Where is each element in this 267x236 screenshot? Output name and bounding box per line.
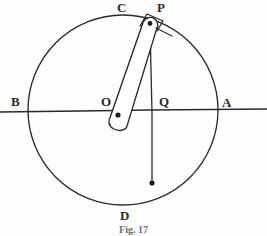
vertex-label-d: D <box>120 209 130 222</box>
link-end-tab-edge <box>156 28 172 36</box>
vertex-label-p: P <box>157 1 165 14</box>
figure-17-container: A B C D O P Q Fig. 17 <box>0 0 267 236</box>
pivot-dot-p <box>148 21 153 26</box>
vertex-label-q: Q <box>159 95 169 108</box>
geometry-diagram-svg <box>0 0 267 236</box>
vertex-label-b: B <box>11 95 20 108</box>
vertex-label-o: O <box>101 95 111 108</box>
pivot-dot-o <box>115 112 120 117</box>
vertex-label-a: A <box>222 96 232 109</box>
tracing-point-dot <box>149 180 154 185</box>
vertex-label-c: C <box>117 1 127 14</box>
figure-caption: Fig. 17 <box>0 224 267 235</box>
